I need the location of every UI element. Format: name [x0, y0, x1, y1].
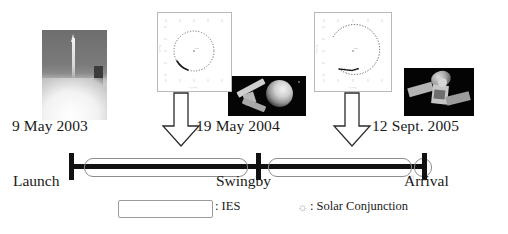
legend-label-ies: : IES	[215, 199, 240, 214]
spacecraft-earth-swingby-photo	[228, 76, 306, 116]
plot-2-xlabel: X [AU]	[348, 86, 356, 89]
sun-marker-1	[193, 50, 195, 52]
timeline-tick-launch	[69, 153, 74, 180]
trajectory-plot-1-svg: Sun X [AU] Y [AU]	[158, 13, 231, 91]
thrust-arc-2	[339, 69, 359, 71]
spacecraft-asteroid-arrival-photo	[404, 68, 474, 116]
legend-label-solar-conjunction: : Solar Conjunction	[310, 199, 408, 214]
date-label-swingby: 19 May 2004	[196, 117, 280, 135]
plot-2-ylabel: Y [AU]	[315, 45, 318, 53]
rocket-launch-photo	[42, 30, 107, 120]
trajectory-plot-phase-2: Sun X [AU] Y [AU]	[314, 12, 392, 92]
spacecraft-body-detail-icon	[434, 89, 446, 99]
legend: : IES ☼ : Solar Conjunction	[0, 198, 508, 228]
event-label-swingby: Swingby	[216, 172, 271, 190]
date-label-arrival: 12 Sept. 2005	[372, 117, 459, 135]
figure-canvas: Sun X [AU] Y [AU] Sun X [AU] Y [AU	[0, 0, 508, 234]
star-icon	[298, 81, 300, 83]
event-label-arrival: Arrival	[404, 172, 449, 190]
plot-1-ylabel: Y [AU]	[158, 45, 161, 53]
exhaust-plume-icon	[42, 78, 107, 120]
earth-icon	[266, 80, 293, 107]
ies-segment-2	[268, 158, 412, 177]
plot-1-xlabel: X [AU]	[189, 86, 197, 89]
trajectory-plot-phase-1: Sun X [AU] Y [AU]	[157, 12, 232, 92]
sun-marker-2	[352, 50, 354, 52]
sun-label-2: Sun	[354, 47, 359, 50]
thrust-arc-1	[177, 61, 188, 70]
high-gain-antenna-icon	[438, 78, 447, 87]
event-label-launch: Launch	[13, 172, 59, 190]
legend-swatch-ies	[118, 200, 213, 218]
trajectory-plot-2-svg: Sun X [AU] Y [AU]	[315, 13, 391, 91]
sun-label-1: Sun	[195, 47, 200, 50]
legend-sun-icon: ☼	[297, 198, 308, 216]
date-label-launch: 9 May 2003	[12, 117, 88, 135]
solar-array-icon	[445, 91, 470, 106]
solar-array-icon	[407, 82, 434, 98]
